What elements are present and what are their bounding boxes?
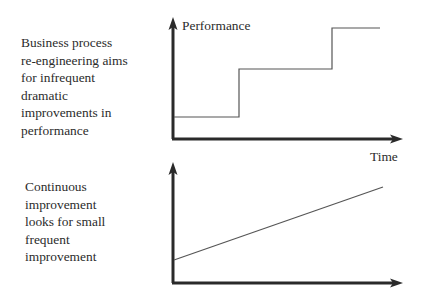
y-axis-label: Performance [182, 18, 250, 33]
step-curve [174, 28, 380, 117]
x-axis-label: Time [370, 149, 398, 164]
diagram-canvas: Performance Time [0, 0, 424, 298]
linear-curve [174, 187, 383, 260]
continuous-chart [169, 162, 404, 288]
bpr-chart: Performance Time [169, 17, 404, 164]
